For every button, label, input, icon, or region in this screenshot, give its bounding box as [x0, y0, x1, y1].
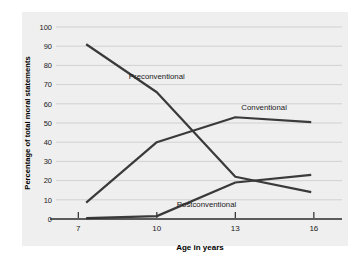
- series-line-preconventional: [86, 44, 311, 192]
- y-axis-tick-label: 40: [44, 138, 52, 147]
- y-axis-tick-labels: 0102030405060708090100: [39, 23, 52, 224]
- y-axis-tick-label: 30: [44, 157, 52, 166]
- x-axis-tick-label: 10: [152, 224, 161, 233]
- series-annotations-group: PreconventionalConventionalPostconventio…: [129, 72, 287, 210]
- series-line-conventional: [86, 117, 311, 202]
- y-axis-tick-label: 100: [39, 23, 52, 32]
- line-chart: 0102030405060708090100 7101316 Preconven…: [0, 0, 364, 270]
- y-axis-tick-label: 10: [44, 196, 52, 205]
- x-axis-tick-labels: 7101316: [76, 224, 319, 233]
- chart-figure: 0102030405060708090100 7101316 Preconven…: [0, 0, 364, 270]
- series-label-postconventional: Postconventional: [177, 200, 237, 209]
- y-axis-title: Percentage of total moral statements: [23, 56, 32, 189]
- y-axis-tick-label: 50: [44, 119, 52, 128]
- series-label-conventional: Conventional: [241, 103, 287, 112]
- y-axis-tick-label: 20: [44, 176, 52, 185]
- series-label-preconventional: Preconventional: [129, 72, 185, 81]
- x-axis-tick-label: 13: [231, 224, 240, 233]
- x-axis-title: Age in years: [176, 243, 224, 252]
- x-axis-tick-label: 7: [76, 224, 81, 233]
- y-axis-tick-label: 70: [44, 80, 52, 89]
- y-axis-tick-label: 90: [44, 42, 52, 51]
- y-axis-tick-label: 80: [44, 61, 52, 70]
- y-axis-tick-label: 60: [44, 100, 52, 109]
- series-lines-group: [86, 44, 311, 218]
- x-axis-tick-label: 16: [309, 224, 318, 233]
- series-line-postconventional: [86, 175, 311, 218]
